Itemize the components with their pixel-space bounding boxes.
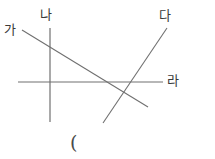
label-ra: 라 — [167, 74, 179, 87]
rising-line — [103, 28, 167, 123]
label-ga: 가 — [4, 23, 16, 36]
label-na: 나 — [40, 8, 52, 21]
descending-line — [22, 30, 148, 107]
diagram-canvas: 가 나 다 라 ( — [0, 0, 215, 159]
open-parenthesis-mark: ( — [70, 133, 77, 152]
geometry-figure — [0, 0, 215, 159]
label-da: 다 — [159, 9, 171, 22]
